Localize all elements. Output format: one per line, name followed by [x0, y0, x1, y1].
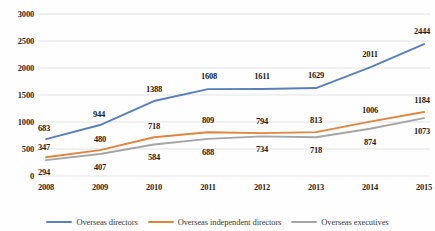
data-label: 683	[38, 123, 50, 133]
chart-plot-area	[0, 0, 435, 231]
legend-item-2[interactable]: Overseas executives	[291, 217, 388, 227]
x-axis-tick-label: 2015	[404, 182, 435, 192]
x-axis-tick-label: 2012	[242, 182, 282, 192]
data-label: 1006	[362, 105, 378, 115]
data-label: 1611	[254, 71, 270, 81]
data-label: 1388	[146, 84, 162, 94]
data-label: 584	[148, 152, 160, 162]
y-axis-tick-label: 1500	[0, 90, 34, 100]
x-axis-tick-label: 2010	[134, 182, 174, 192]
data-label: 944	[93, 109, 105, 119]
data-label: 1073	[414, 126, 430, 136]
data-label: 688	[202, 147, 214, 157]
legend-label: Overseas executives	[321, 217, 388, 227]
legend-label: Overseas directors	[76, 217, 137, 227]
data-label: 2444	[414, 26, 430, 36]
data-label: 718	[148, 121, 160, 131]
data-label: 480	[94, 134, 106, 144]
x-axis-tick-label: 2011	[188, 182, 228, 192]
data-label: 407	[94, 162, 106, 172]
y-axis-tick-label: 1000	[0, 117, 34, 127]
legend-label: Overseas independent directors	[178, 217, 282, 227]
y-axis-tick-label: 3000	[0, 9, 34, 19]
data-label: 813	[310, 115, 322, 125]
y-axis-tick-label: 2500	[0, 36, 34, 46]
legend-item-0[interactable]: Overseas directors	[46, 217, 137, 227]
data-label: 809	[202, 115, 214, 125]
data-label: 794	[256, 116, 268, 126]
data-label: 1184	[414, 95, 430, 105]
y-axis-tick-label: 2000	[0, 63, 34, 73]
x-axis-tick-label: 2014	[350, 182, 390, 192]
data-label: 718	[310, 145, 322, 155]
x-axis-tick-label: 2008	[26, 182, 66, 192]
data-label: 1629	[308, 70, 324, 80]
y-axis-tick-label: 500	[0, 144, 34, 154]
chart-legend: Overseas directorsOverseas independent d…	[0, 217, 435, 227]
legend-swatch-icon	[148, 221, 174, 224]
gridlines	[38, 14, 430, 176]
data-label: 347	[38, 142, 50, 152]
line-chart: 050010001500200025003000 200820092010201…	[0, 0, 435, 231]
legend-item-1[interactable]: Overseas independent directors	[148, 217, 282, 227]
x-axis-tick-label: 2013	[296, 182, 336, 192]
data-label: 2011	[362, 49, 378, 59]
data-label: 734	[256, 144, 268, 154]
legend-swatch-icon	[46, 221, 72, 224]
x-axis-tick-label: 2009	[80, 182, 120, 192]
data-label: 874	[364, 137, 376, 147]
data-label: 1608	[201, 71, 217, 81]
y-axis-tick-label: 0	[0, 171, 34, 181]
legend-swatch-icon	[291, 221, 317, 224]
data-label: 294	[38, 167, 50, 177]
